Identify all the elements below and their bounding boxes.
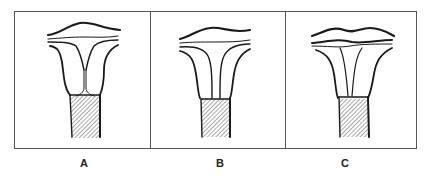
drawing-b [180, 28, 250, 137]
panel-label-b: B [210, 157, 230, 169]
illustration [0, 0, 432, 178]
panel-label-a: A [74, 157, 94, 169]
drawing-c [312, 28, 394, 137]
panel-label-c: C [335, 157, 355, 169]
drawing-a [48, 23, 120, 138]
